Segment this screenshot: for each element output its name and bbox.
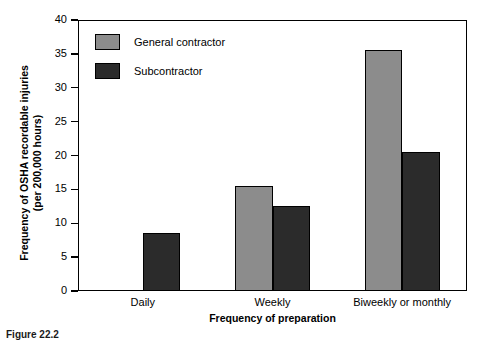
legend: General contractor Subcontractor bbox=[95, 32, 225, 90]
y-axis-tick-label: 5 bbox=[37, 251, 67, 262]
y-axis-tick-label: 30 bbox=[37, 82, 67, 93]
plot-frame-right bbox=[466, 20, 467, 291]
y-axis-tick bbox=[71, 189, 78, 190]
x-axis-tick-label: Daily bbox=[78, 296, 208, 308]
y-axis-tick bbox=[71, 87, 78, 88]
x-axis-tick-label: Weekly bbox=[208, 296, 338, 308]
y-axis-tick-label: 10 bbox=[37, 217, 67, 228]
legend-swatch-general-contractor bbox=[95, 34, 120, 50]
x-axis-tick-label: Biweekly or monthly bbox=[337, 296, 467, 308]
y-axis-tick bbox=[71, 256, 78, 257]
legend-label-general-contractor: General contractor bbox=[134, 37, 225, 48]
y-axis-tick bbox=[71, 53, 78, 54]
figure-caption: Figure 22.2 bbox=[6, 329, 59, 340]
bar-subcontractor-0 bbox=[143, 233, 181, 291]
y-axis-tick-label: 35 bbox=[37, 48, 67, 59]
y-axis-tick bbox=[71, 19, 78, 20]
bar-subcontractor-2 bbox=[402, 152, 440, 291]
y-axis-title-line1: Frequency of OSHA recordable injuries bbox=[18, 28, 31, 298]
y-axis-tick-label: 25 bbox=[37, 116, 67, 127]
plot-frame-top bbox=[78, 20, 467, 21]
y-axis-tick bbox=[71, 223, 78, 224]
legend-swatch-subcontractor bbox=[95, 63, 120, 79]
y-axis-tick-label: 20 bbox=[37, 150, 67, 161]
y-axis-tick bbox=[71, 121, 78, 122]
legend-item: Subcontractor bbox=[95, 61, 225, 81]
y-axis-tick bbox=[71, 290, 78, 291]
bar-general-contractor-1 bbox=[235, 186, 273, 291]
y-axis-tick-label: 0 bbox=[37, 285, 67, 296]
legend-item: General contractor bbox=[95, 32, 225, 52]
bar-general-contractor-2 bbox=[365, 50, 403, 291]
legend-label-subcontractor: Subcontractor bbox=[134, 66, 202, 77]
y-axis-tick-label: 15 bbox=[37, 183, 67, 194]
bar-subcontractor-1 bbox=[273, 206, 311, 291]
y-axis-tick-label: 40 bbox=[37, 14, 67, 25]
x-axis-title: Frequency of preparation bbox=[78, 312, 467, 324]
y-axis-tick bbox=[71, 155, 78, 156]
